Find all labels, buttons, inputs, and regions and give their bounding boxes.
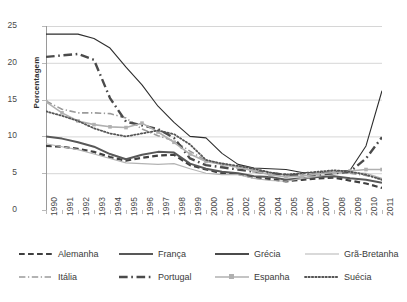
x-axis-tick-label: 1992 (82, 197, 91, 216)
x-axis-tick-mark (350, 210, 351, 214)
legend-label: Suécia (344, 273, 372, 282)
series-marker (172, 140, 176, 144)
x-axis-tick-label: 1997 (162, 197, 171, 216)
x-axis-tick-label: 2002 (242, 197, 251, 216)
x-axis-tick-mark (126, 210, 127, 214)
series-marker (60, 111, 64, 115)
legend-swatch (304, 248, 340, 260)
x-axis-tick-label: 2011 (386, 198, 395, 216)
x-axis-tick-label: 1994 (114, 197, 123, 216)
chart-figure: Porcentagem 0510152025 19901991199219931… (0, 0, 407, 302)
legend-swatch (18, 271, 54, 283)
series-line-it-lia (46, 101, 382, 179)
series-lines (46, 26, 382, 210)
series-marker (380, 168, 382, 172)
legend-swatch (214, 271, 250, 283)
x-axis-tick-label: 1999 (194, 197, 203, 216)
x-axis-tick-mark (110, 210, 111, 214)
series-marker (140, 121, 144, 125)
legend-item-alemanha[interactable]: Alemanha (18, 243, 99, 265)
series-marker (46, 100, 48, 104)
x-axis-tick-mark (174, 210, 175, 214)
series-marker (188, 152, 192, 156)
y-axis-tick-label: 10 (0, 131, 17, 140)
y-axis-tick-label: 20 (0, 58, 17, 67)
x-axis-tick-mark (46, 210, 47, 214)
plot-area (46, 26, 382, 210)
x-axis-tick-mark (366, 210, 367, 214)
legend-label: Portugal (158, 273, 192, 282)
x-axis-tick-label: 2006 (306, 197, 315, 216)
x-axis-tick-mark (94, 210, 95, 214)
legend-label: Espanha (254, 273, 290, 282)
x-axis-tick-mark (302, 210, 303, 214)
legend-swatch (18, 248, 54, 260)
legend-item-fran-a[interactable]: França (118, 243, 186, 265)
legend-item-su-cia[interactable]: Suécia (304, 266, 372, 288)
legend-row: AlemanhaFrançaGréciaGrã-Bretanha (18, 243, 396, 265)
legend-swatch (118, 271, 154, 283)
x-axis-tick-mark (318, 210, 319, 214)
legend-item-gr-cia[interactable]: Grécia (214, 243, 281, 265)
x-axis-tick-label: 2004 (274, 197, 283, 216)
x-axis-tick-mark (206, 210, 207, 214)
legend-row: ItáliaPortugalEspanhaSuécia (18, 266, 396, 288)
series-marker (92, 123, 96, 127)
chart-legend: AlemanhaFrançaGréciaGrã-Bretanha ItáliaP… (18, 243, 396, 291)
x-axis-tick-label: 2008 (338, 197, 347, 216)
x-axis-tick-mark (142, 210, 143, 214)
x-axis-tick-mark (254, 210, 255, 214)
legend-label: Grécia (254, 250, 281, 259)
x-axis-tick-label: 2009 (354, 197, 363, 216)
x-axis-tick-mark (286, 210, 287, 214)
y-axis-tick-label: 0 (0, 205, 17, 214)
x-axis-tick-mark (382, 210, 383, 214)
y-axis-tick-label: 15 (0, 95, 17, 104)
series-line-fran-a (46, 136, 382, 182)
legend-swatch (304, 271, 340, 283)
x-axis-tick-label: 2007 (322, 197, 331, 216)
x-axis-tick-mark (78, 210, 79, 214)
x-axis-tick-mark (62, 210, 63, 214)
series-marker (316, 172, 320, 176)
x-axis-tick-mark (334, 210, 335, 214)
legend-item-it-lia[interactable]: Itália (18, 266, 77, 288)
y-axis-tick-label: 5 (0, 168, 17, 177)
x-axis-tick-label: 1993 (98, 197, 107, 216)
x-axis-tick-mark (190, 210, 191, 214)
x-axis-tick-label: 1998 (178, 197, 187, 216)
x-axis-tick-mark (238, 210, 239, 214)
x-axis-tick-label: 1991 (66, 197, 75, 216)
x-axis-tick-label: 1996 (146, 197, 155, 216)
series-marker (284, 175, 288, 179)
x-axis-tick-label: 2001 (226, 197, 235, 216)
legend-label: Itália (58, 273, 77, 282)
x-axis-tick-label: 2003 (258, 197, 267, 216)
series-marker (364, 168, 368, 172)
legend-item-portugal[interactable]: Portugal (118, 266, 192, 288)
series-line-portugal (46, 54, 382, 175)
series-marker (108, 125, 112, 129)
series-marker (300, 174, 304, 178)
legend-item-espanha[interactable]: Espanha (214, 266, 290, 288)
legend-swatch (118, 248, 154, 260)
legend-label: França (158, 250, 186, 259)
y-axis-title: Porcentagem (32, 23, 41, 143)
x-axis-tick-label: 2010 (370, 197, 379, 216)
legend-item-gr-bretanha[interactable]: Grã-Bretanha (304, 243, 399, 265)
x-axis-tick-mark (222, 210, 223, 214)
legend-label: Grã-Bretanha (344, 250, 399, 259)
x-axis-tick-mark (158, 210, 159, 214)
legend-swatch (214, 248, 250, 260)
x-axis-tick-label: 1995 (130, 197, 139, 216)
series-marker (252, 169, 256, 173)
x-axis-tick-label: 2000 (210, 197, 219, 216)
series-marker (124, 126, 128, 130)
series-line-alemanha (46, 146, 382, 188)
x-axis-tick-label: 2005 (290, 197, 299, 216)
x-axis-tick-mark (270, 210, 271, 214)
y-axis-tick-label: 25 (0, 21, 17, 30)
legend-label: Alemanha (58, 250, 99, 259)
x-axis-tick-label: 1990 (50, 197, 59, 216)
